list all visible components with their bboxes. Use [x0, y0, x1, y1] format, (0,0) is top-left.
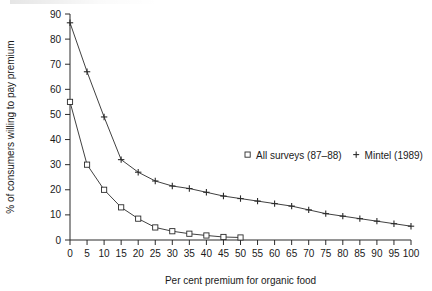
x-tick-label: 60 [269, 248, 281, 259]
y-tick-label: 30 [50, 159, 62, 170]
x-tick-label: 70 [303, 248, 315, 259]
data-point [119, 205, 124, 210]
x-tick-label: 65 [286, 248, 298, 259]
x-axis-ticks: 0510152025303540455055606570758085909510… [67, 240, 420, 259]
y-tick-label: 60 [50, 84, 62, 95]
y-axis-ticks: 0102030405060708090 [50, 9, 70, 246]
data-point [408, 223, 414, 229]
data-point [136, 216, 141, 221]
y-tick-label: 70 [50, 59, 62, 70]
data-point [306, 207, 312, 213]
x-tick-label: 100 [403, 248, 420, 259]
chart-container: 0102030405060708090 05101520253035404550… [0, 0, 432, 291]
data-point [237, 195, 243, 201]
data-series-layer [67, 20, 414, 241]
y-tick-label: 40 [50, 134, 62, 145]
data-point [357, 215, 363, 221]
data-point [102, 187, 107, 192]
data-point [84, 162, 89, 167]
x-tick-label: 85 [354, 248, 366, 259]
data-point [203, 189, 209, 195]
x-tick-label: 25 [150, 248, 162, 259]
x-tick-label: 45 [218, 248, 230, 259]
y-tick-label: 90 [50, 9, 62, 20]
data-point [288, 203, 294, 209]
data-point [374, 218, 380, 224]
y-tick-label: 10 [50, 209, 62, 220]
data-point [67, 99, 72, 104]
data-point [340, 213, 346, 219]
chart-legend: All surveys (87–88)Mintel (1989) [245, 150, 423, 161]
data-point [220, 193, 226, 199]
data-point [101, 114, 107, 120]
x-tick-label: 75 [320, 248, 332, 259]
x-tick-label: 35 [184, 248, 196, 259]
series-2 [67, 20, 414, 230]
data-point [170, 229, 175, 234]
legend-marker-plus [353, 152, 359, 158]
legend-label: Mintel (1989) [365, 150, 423, 161]
y-tick-label: 20 [50, 184, 62, 195]
data-point [186, 185, 192, 191]
data-point [152, 178, 158, 184]
x-tick-label: 5 [84, 248, 90, 259]
data-point [221, 234, 226, 239]
legend-label: All surveys (87–88) [256, 150, 342, 161]
x-tick-label: 55 [252, 248, 264, 259]
y-tick-label: 0 [55, 235, 61, 246]
y-tick-label: 50 [50, 109, 62, 120]
data-point [187, 231, 192, 236]
series-1 [67, 99, 243, 240]
x-tick-label: 0 [67, 248, 73, 259]
series-line-1 [70, 102, 241, 238]
x-tick-label: 50 [235, 248, 247, 259]
data-point [135, 169, 141, 175]
data-point [118, 156, 124, 162]
data-point [238, 235, 243, 240]
data-point [153, 225, 158, 230]
data-point [169, 183, 175, 189]
data-point [391, 220, 397, 226]
y-tick-label: 80 [50, 34, 62, 45]
chart-plot-area: 0102030405060708090 05101520253035404550… [0, 0, 432, 291]
x-tick-label: 40 [201, 248, 213, 259]
x-tick-label: 90 [371, 248, 383, 259]
x-tick-label: 30 [167, 248, 179, 259]
data-point [204, 233, 209, 238]
data-point [84, 69, 90, 75]
x-tick-label: 10 [99, 248, 111, 259]
data-point [254, 198, 260, 204]
data-point [323, 210, 329, 216]
x-tick-label: 15 [116, 248, 128, 259]
data-point [67, 20, 73, 26]
x-axis-title: Per cent premium for organic food [165, 275, 316, 286]
x-tick-label: 80 [337, 248, 349, 259]
y-axis-title: % of consumers willing to pay premium [5, 40, 16, 213]
x-tick-label: 20 [133, 248, 145, 259]
legend-marker-square [245, 152, 250, 157]
data-point [271, 200, 277, 206]
x-tick-label: 95 [388, 248, 400, 259]
